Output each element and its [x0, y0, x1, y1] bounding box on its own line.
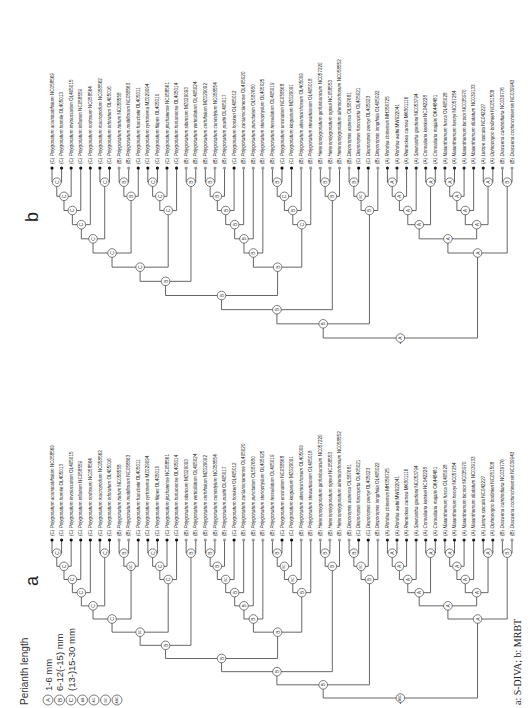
ancestral-state-node: B [187, 178, 196, 187]
taxon-label: (A) Rohdea wattii MW922041 [395, 476, 400, 536]
ancestral-state-node: C [52, 178, 61, 187]
tree-branch [448, 606, 478, 619]
tree-branch [477, 182, 488, 225]
taxon-label: (C) Polygonatum cyrtonema MZ029094 [145, 83, 150, 164]
taxon-label: (B) Heteropolygonatum alternicirrhosum N… [337, 59, 342, 164]
panel-letter-a: a [22, 575, 42, 586]
svg-text:C: C [90, 237, 96, 241]
taxon-label: (B) Polygonatum punctatum OL587680 [251, 456, 256, 536]
tree-branch [226, 168, 234, 211]
tip-dot [108, 538, 111, 541]
ancestral-state-node: C [100, 178, 109, 187]
ancestral-state-node: A [473, 249, 482, 258]
taxon-label: (B) Polygonatum stenophyllum OL405025 [260, 78, 265, 164]
figure-caption: a: S-DIVA; b: MRBT [512, 619, 523, 705]
tip-dot [280, 538, 283, 541]
tip-dot [70, 166, 73, 169]
taxon-label: (B) Polygonatum zanlanscianense OL405020 [241, 71, 246, 164]
legend-item-ac: AC [89, 695, 99, 705]
ancestral-state-node: B [288, 206, 297, 215]
ancestral-state-node: BC [357, 192, 366, 201]
tip-dot [491, 538, 494, 541]
ancestral-state-node: B [321, 178, 330, 187]
tip-dot [424, 538, 427, 541]
tree-branch [408, 540, 416, 580]
tip-dot [165, 166, 168, 169]
tip-dot [127, 166, 130, 169]
ancestral-state-node: B [273, 549, 282, 558]
svg-text:C: C [54, 180, 60, 184]
ancestral-state-node: A [445, 178, 454, 187]
taxon-label: (A) Rohdea chinensis MH356725 [385, 96, 390, 164]
taxon-label: (C) Disporopsis fuscopicta OL405021 [356, 87, 361, 164]
taxon-label: (B) Disporopsis aspersa OL587681 [347, 464, 352, 536]
taxon-label: (C) Polygonatum jinzhaiense NC058561 [165, 82, 170, 164]
svg-text:C: C [157, 564, 163, 568]
ancestral-state-node: C [108, 615, 117, 624]
taxon-label: (C) Polygonatum uncinatum NC058568 [280, 455, 285, 536]
taxon-label: (C) Polygonatum hunanense OL405014 [174, 82, 179, 164]
ancestral-state-node: B [321, 549, 330, 558]
ancestral-state-node: A [484, 549, 493, 558]
tree-branch [166, 281, 222, 295]
ancestral-state-node: A [453, 562, 462, 571]
svg-text:C: C [109, 251, 115, 255]
ancestral-state-node: B [127, 192, 136, 201]
tip-dot [194, 538, 197, 541]
ancestral-state-node: C [164, 206, 173, 215]
tree-branch [293, 540, 301, 580]
tip-dot [146, 166, 149, 169]
svg-text:C: C [165, 208, 171, 212]
tree-branch [448, 593, 477, 606]
taxon-label: (A) Reineckea carnea MK801116 [404, 468, 409, 536]
ancestral-state-node: BC [136, 628, 145, 637]
tree-branch [93, 553, 105, 606]
ancestral-state-node: C [156, 562, 165, 571]
tree-branch [302, 540, 311, 593]
taxon-label: (B) Dracaena cambodiana NC039776 [500, 87, 505, 164]
ancestral-state-node: B [273, 263, 282, 272]
svg-text:ABC: ABC [115, 696, 119, 704]
tip-dot [280, 166, 283, 169]
taxon-label: (B) Disporopsis longifolia OL405022 [375, 462, 380, 536]
tip-dot [415, 166, 418, 169]
tip-dot [405, 538, 408, 541]
taxon-label: (B) Disporopsis longifolia OL405022 [375, 90, 380, 164]
tip-dot [261, 538, 264, 541]
tip-dot [319, 166, 322, 169]
taxon-label: (A) Maianthemum fusca OL405028 [443, 92, 448, 164]
panel-a: CCCCCCBBCCCCCBCBBBBBCBBBBBCBCBBBBBBBBCBB… [50, 431, 515, 704]
tip-dot [309, 538, 312, 541]
tip-dot [462, 166, 465, 169]
tree-branch [166, 645, 222, 658]
tip-dot [357, 166, 360, 169]
ancestral-state-node: A [472, 588, 481, 597]
tip-dot [194, 166, 197, 169]
ancestral-state-node: A [484, 178, 493, 187]
ancestral-state-node: BC [280, 562, 289, 571]
tree-branch [168, 540, 176, 580]
ancestral-state-node: B [217, 654, 226, 663]
taxon-label: (A) Maianthemum dilatatum NC039133 [471, 84, 476, 164]
taxon-label: (C) Polygonatum filipes OL405010 [155, 465, 160, 536]
svg-text:C: C [90, 604, 96, 608]
taxon-label: (C) Polygonatum filipes OL405010 [155, 93, 160, 164]
tree-branch [419, 553, 430, 593]
taxon-label: (B) Polygonatum curvistylum NC058554 [213, 82, 218, 164]
tip-dot [252, 538, 255, 541]
tree-branch [408, 168, 416, 211]
ancestral-state-node: B [319, 320, 328, 329]
tip-dot [415, 538, 418, 541]
taxon-label: (C) Disporopsis pernyi OL405023 [366, 95, 371, 164]
ancestral-state-node: A [473, 615, 482, 624]
tree-branch [369, 168, 377, 211]
ancestral-state-node: BC [357, 562, 366, 571]
tree-branch [400, 619, 477, 698]
ancestral-state-node: A [445, 549, 454, 558]
tip-dot [338, 538, 341, 541]
taxon-label: (B) Polygonatum stewartianum OL405018 [308, 78, 313, 164]
taxon-label: (C) Polygonatum kingianum MZ029091 [289, 456, 294, 536]
ancestral-state-node: B [328, 562, 337, 571]
tip-dot [482, 166, 485, 169]
tip-dot [443, 538, 446, 541]
